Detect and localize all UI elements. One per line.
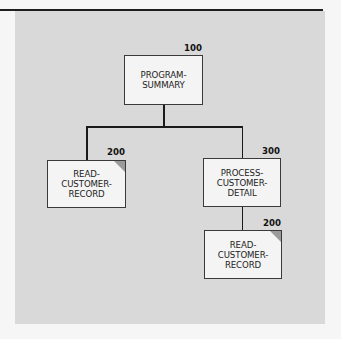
module-number-100: 100 (172, 43, 202, 53)
module-read-customer-record-left[interactable]: READ- CUSTOMER- RECORD (47, 160, 126, 208)
connector-horizontal (86, 126, 243, 128)
module-number-300: 300 (250, 146, 280, 156)
connector-300-to-200 (242, 206, 244, 230)
connector-to-200-left (86, 126, 88, 160)
shaded-corner-icon (114, 161, 125, 172)
module-process-customer-detail[interactable]: PROCESS- CUSTOMER- DETAIL (203, 158, 281, 207)
shaded-corner-icon (270, 231, 281, 242)
module-label: READ- CUSTOMER- RECORD (218, 240, 268, 270)
module-label: READ- CUSTOMER- RECORD (61, 169, 111, 199)
module-read-customer-record-bottom[interactable]: READ- CUSTOMER- RECORD (204, 230, 282, 279)
module-number-200-left: 200 (95, 147, 125, 157)
module-number-200-bottom: 200 (251, 218, 281, 228)
connector-to-300 (242, 126, 244, 158)
module-program-summary[interactable]: PROGRAM- SUMMARY (124, 55, 203, 105)
connector-stem-100 (163, 104, 165, 127)
module-label: PROGRAM- SUMMARY (141, 70, 187, 90)
module-label: PROCESS- CUSTOMER- DETAIL (217, 168, 267, 198)
